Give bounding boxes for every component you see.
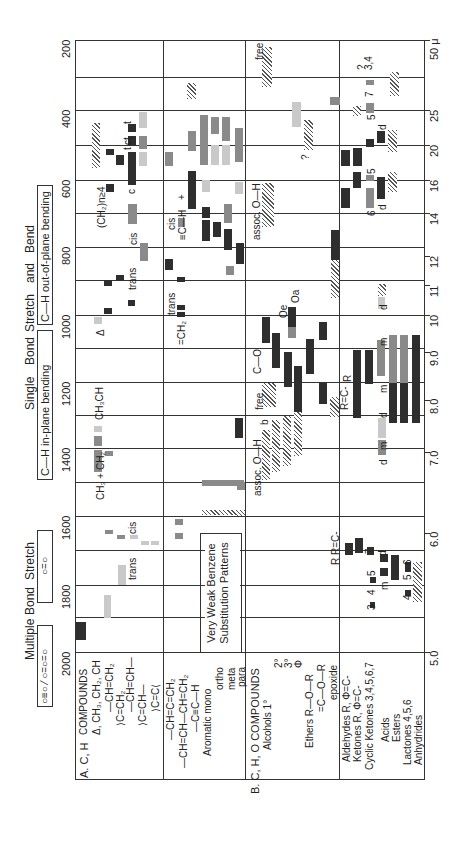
tick-800: 800 [60,247,72,265]
band [177,312,185,317]
band [353,350,361,418]
tick-mu-14: 14 [428,213,440,225]
tick-mu-6: 6.0 [428,532,440,547]
annotation: + [176,194,187,200]
band [380,568,388,576]
annotation: ≡C—H [177,210,188,240]
band [202,220,210,241]
band [413,562,422,602]
gridline [75,550,205,551]
header-multiple: Multiple [23,619,37,660]
band [117,535,125,539]
annotation: m [378,442,389,450]
annotation: Oe [278,305,289,318]
gridline [75,348,425,349]
annotation: (CH₂)n≥4 [96,186,107,228]
band [330,97,340,105]
band [353,106,361,116]
band [188,171,196,209]
band [235,128,243,162]
row-label: Ketones R, Φ=C- [352,685,363,762]
band [366,103,374,113]
header-stretch-1: Stretch [23,542,37,580]
tick-1200: 1200 [60,382,72,406]
band [106,149,114,155]
row-label: Anhydrides [413,715,424,765]
row-label: —C≡C—H [190,685,201,733]
band [187,83,196,99]
gridline [75,585,205,586]
band [331,230,339,260]
header-bend: Bend [23,225,37,253]
band [288,307,296,327]
band [175,533,183,539]
band [129,204,137,224]
tick-1000: 1000 [60,315,72,339]
column-divider [339,40,340,780]
tick-2000: 2000 [60,652,72,676]
triple-bond-label: ○≡○ ⁄ ○=○=○ [39,649,50,704]
annotation: trans [127,268,138,290]
annotation: R [342,375,353,382]
gridline [75,448,425,449]
gridline [240,617,425,618]
band [237,482,245,490]
band [94,426,102,432]
tick-1400: 1400 [60,448,72,472]
band [165,259,173,270]
annotation: cis [166,218,177,230]
band [224,204,232,223]
gridline [75,315,425,316]
tick-1800: 1800 [60,585,72,609]
band [400,383,408,423]
annotation: free [254,43,265,60]
benzene-note: Very Weak Benzene Substitution Patterns [205,534,231,652]
annotation: d [378,459,389,465]
annotation: 5 [366,570,377,576]
annotation: b [259,419,270,425]
band [175,519,183,525]
gridline [75,652,425,653]
band [165,152,173,166]
band [292,102,301,127]
tick-mu-25: 25 [428,110,440,122]
section-b-title: B. C, H, O COMPOUNDS [249,668,261,794]
band [391,555,399,580]
tick-mu-16: 16 [428,180,440,192]
annotation: d [377,204,388,210]
row-label: Lactones 4,5,6 [402,699,413,765]
band [94,436,102,446]
annotation: R=C- [339,386,350,410]
row-label: —CH=CH— [125,657,136,712]
band [237,510,245,516]
row-label: ortho [214,667,225,690]
band [294,366,302,412]
tick-1600: 1600 [60,516,72,540]
tick-mu-11: 11 [428,286,440,297]
band [226,266,234,275]
tick-mu-9: 9.0 [428,351,440,366]
band [283,416,291,466]
band [262,317,270,343]
band [105,451,113,456]
band [306,339,314,374]
annotation: ? [300,154,311,160]
band [224,229,232,250]
row-label: epoxide [328,665,339,700]
annotation: assoc. O—H [252,439,263,496]
row-label: Cyclic Ketones 3,4,5,6,7 [364,662,375,770]
annotation: 5 [366,114,377,120]
annotation: 5 [366,168,377,174]
row-label: Alcohols 1° [262,700,273,750]
tick-mu-5: 5.0 [428,651,440,666]
band [272,420,280,472]
band [378,284,386,296]
band [370,577,376,583]
band [304,120,313,150]
band [294,412,302,456]
gridline [75,617,205,618]
row-label: Ethers R—O—R [304,674,315,748]
column-divider [163,40,164,780]
band [116,275,124,281]
band [388,172,397,192]
